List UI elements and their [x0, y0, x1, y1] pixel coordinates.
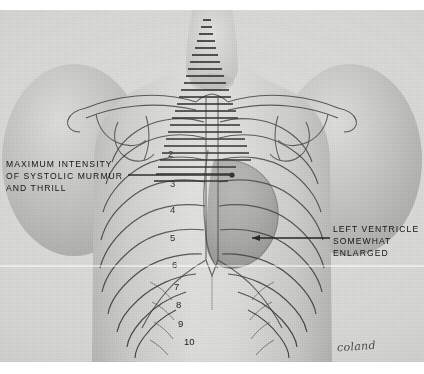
rib-number-2: 2: [168, 148, 173, 159]
maximum-intensity-label: MAXIMUM INTENSITY OF SYSTOLIC MURMUR AND…: [6, 158, 123, 195]
rib-number-3: 3: [170, 178, 175, 189]
rib-number-9: 9: [178, 318, 183, 329]
rib-number-4: 4: [170, 204, 175, 215]
rib-number-6: 6: [172, 259, 177, 270]
label-right-line-2: SOMEWHAT: [333, 235, 419, 247]
artist-signature: coland: [337, 339, 377, 355]
rib-number-10: 10: [184, 336, 195, 347]
chest-illustration-figure: 2 3 4 5 6 7 8 9 10 MAXIMUM INTENSITY OF …: [0, 0, 424, 374]
label-right-line-1: LEFT VENTRICLE: [333, 223, 419, 235]
label-left-line-1: MAXIMUM INTENSITY: [6, 158, 123, 170]
rib-number-7: 7: [174, 281, 179, 292]
left-ventricle-label: LEFT VENTRICLE SOMEWHAT ENLARGED: [333, 223, 419, 260]
label-left-line-3: AND THRILL: [6, 182, 123, 194]
murmur-point-marker: [229, 172, 234, 177]
rib-number-5: 5: [170, 232, 175, 243]
label-right-line-3: ENLARGED: [333, 247, 419, 259]
label-left-line-2: OF SYSTOLIC MURMUR: [6, 170, 123, 182]
illustration-plate: 2 3 4 5 6 7 8 9 10 MAXIMUM INTENSITY OF …: [0, 10, 424, 362]
rib-number-8: 8: [176, 299, 181, 310]
